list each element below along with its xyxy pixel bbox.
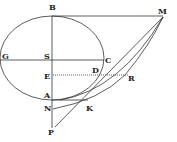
- label-A: A: [43, 90, 51, 100]
- curve-AM: [60, 17, 163, 100]
- label-G: G: [2, 51, 9, 61]
- label-C: C: [105, 55, 111, 65]
- label-K: K: [86, 103, 94, 113]
- line-PM: [55, 17, 163, 127]
- label-P: P: [48, 127, 54, 137]
- label-M: M: [158, 6, 167, 16]
- geometry-diagram: B M G S C E D R A N K P: [0, 0, 177, 142]
- label-R: R: [128, 73, 135, 83]
- label-D: D: [92, 65, 99, 75]
- label-S: S: [44, 51, 50, 61]
- label-N: N: [44, 103, 51, 113]
- label-B: B: [49, 2, 56, 12]
- label-E: E: [44, 71, 50, 81]
